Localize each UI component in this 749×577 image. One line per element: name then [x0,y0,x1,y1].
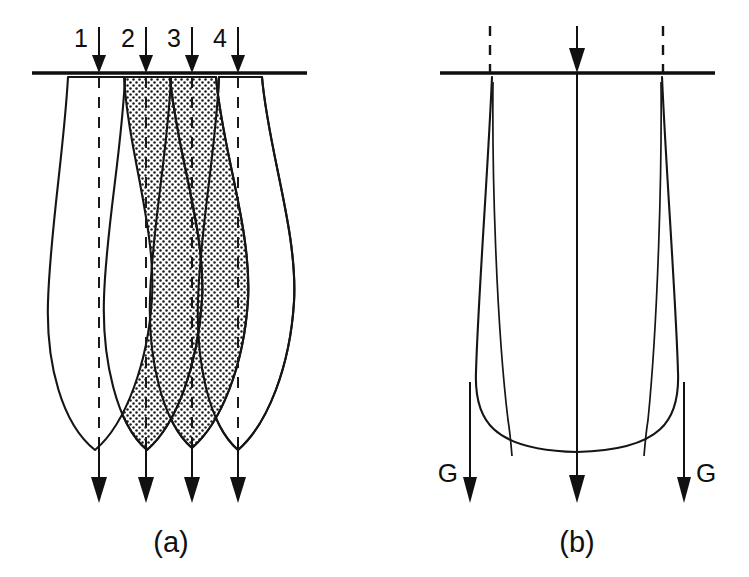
outflow-arrow-b-right [677,382,691,503]
outflow-arrow-b-center [569,475,585,503]
outflow-arrow-a-3 [184,440,200,503]
inflow-arrow-a-2 [139,27,153,73]
capture-lobe-b-inner-right [644,82,661,456]
panel-a-label-2: 2 [121,24,135,52]
panel-a: 1 2 3 4 (a) [32,24,307,558]
capture-lobe-b-inner-left [493,82,512,456]
outflow-arrow-a-4 [230,440,246,503]
panel-a-label-4: 4 [213,24,227,52]
panel-b-caption: (b) [559,526,594,558]
panel-b: G G (b) [438,26,716,558]
figure-root: 1 2 3 4 (a) [0,0,749,577]
outflow-arrow-b-left [463,382,477,503]
inflow-arrow-a-4 [231,27,245,73]
panel-b-label-g-right: G [696,458,716,488]
panel-a-caption: (a) [153,526,188,558]
inflow-arrow-a-3 [185,27,199,73]
panel-a-label-1: 1 [74,24,88,52]
panel-b-label-g-left: G [438,458,458,488]
outflow-arrow-a-2 [138,440,154,503]
inflow-arrow-a-1 [92,27,106,73]
diagram-canvas: 1 2 3 4 (a) [0,0,749,577]
inflow-arrow-b-center [569,26,585,73]
panel-a-label-3: 3 [167,24,181,52]
